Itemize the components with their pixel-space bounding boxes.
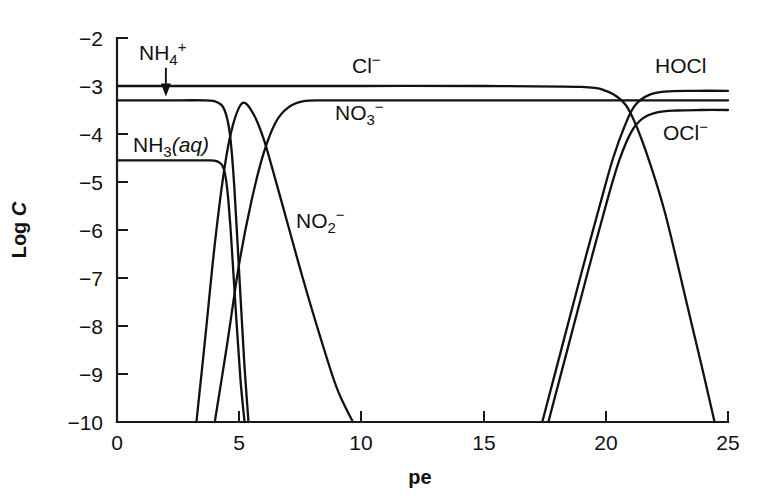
- x-tick-label: 5: [233, 431, 245, 454]
- series-label-nitrite: NO2−: [296, 206, 345, 236]
- curve-hypochlorous-acid: [542, 91, 728, 422]
- y-tick-label: −5: [79, 171, 103, 194]
- series-label-hypochlorous-acid: HOCl: [655, 54, 706, 77]
- speciation-chart-figure: −2 −3 −4 −5 −6 −7 −8 −9 −10 0 5 10 15 20…: [0, 0, 762, 501]
- y-tick-label: −9: [79, 363, 103, 386]
- label-ocl-base: OCl: [663, 121, 699, 144]
- y-tick-label: −3: [79, 75, 103, 98]
- label-cl-base: Cl: [352, 54, 372, 77]
- y-tick-label: −8: [79, 315, 103, 338]
- series-label-nitrate: NO3−: [335, 98, 384, 128]
- label-nh3-suffix: (aq): [172, 133, 209, 156]
- y-tick-label: −2: [79, 27, 103, 50]
- label-cl-sup: −: [372, 51, 381, 68]
- label-no2-base: NO: [296, 209, 328, 232]
- x-tick-label: 15: [472, 431, 495, 454]
- label-no2-sup: −: [336, 206, 345, 223]
- label-nh4-base: NH: [139, 41, 169, 64]
- y-axis-title: Log C: [8, 201, 30, 258]
- series-label-ammonium: NH4+: [139, 38, 187, 68]
- label-nh3-sub: 3: [163, 143, 171, 160]
- series-label-ammonia: NH3(aq): [133, 133, 209, 160]
- label-no2-sub: 2: [328, 219, 336, 236]
- y-tick-label: −10: [67, 411, 103, 434]
- y-tick-label: −4: [79, 123, 103, 146]
- series-label-hypochlorite: OCl−: [663, 118, 708, 144]
- curve-ammonia: [117, 160, 245, 422]
- x-tick-label: 25: [716, 431, 739, 454]
- label-nh4-sup: +: [178, 38, 187, 55]
- label-nh3-base: NH: [133, 133, 163, 156]
- chart-svg: −2 −3 −4 −5 −6 −7 −8 −9 −10 0 5 10 15 20…: [0, 0, 762, 501]
- label-ocl-sup: −: [699, 118, 708, 135]
- x-tick-label: 20: [594, 431, 617, 454]
- curve-hypochlorite-plateau: [548, 110, 728, 422]
- x-axis-ticks: [117, 411, 728, 422]
- x-axis-title: pe: [408, 466, 431, 488]
- curve-nitrite: [196, 103, 352, 422]
- label-nh4-sub: 4: [169, 51, 177, 68]
- series-label-chloride: Cl−: [352, 51, 381, 77]
- svg-text:Log C: Log C: [8, 201, 30, 258]
- y-tick-label: −7: [79, 267, 103, 290]
- x-tick-label: 10: [349, 431, 372, 454]
- y-tick-label: −6: [79, 219, 103, 242]
- label-no3-base: NO: [335, 101, 367, 124]
- x-tick-labels: 0 5 10 15 20 25: [111, 431, 740, 454]
- curve-nitrate: [215, 100, 728, 422]
- label-no3-sub: 3: [367, 111, 375, 128]
- nh4-annotation-arrow: [161, 68, 171, 97]
- y-axis-ticks: [117, 38, 128, 422]
- label-hocl-base: HOCl: [655, 54, 706, 77]
- y-axis-title-c: C: [8, 201, 30, 216]
- y-axis-title-log: Log: [8, 216, 30, 258]
- x-tick-label: 0: [111, 431, 123, 454]
- label-no3-sup: −: [375, 98, 384, 115]
- y-tick-labels: −2 −3 −4 −5 −6 −7 −8 −9 −10: [67, 27, 103, 434]
